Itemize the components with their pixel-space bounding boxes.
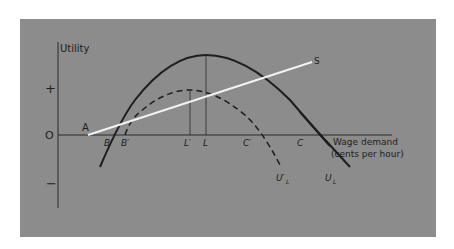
label-UL: U — [325, 173, 332, 183]
utility-diagram: Utility + O − A B B′ L′ L C′ C S Wage de… — [0, 0, 454, 249]
label-B-prime: B′ — [121, 138, 129, 148]
label-UL-prime-sub: L — [286, 178, 289, 185]
minus-sign: − — [46, 176, 57, 191]
label-L-prime: L′ — [184, 138, 191, 148]
origin-label: O — [45, 129, 54, 142]
label-UL-sub: L — [333, 178, 336, 185]
y-axis-label: Utility — [60, 43, 89, 54]
x-axis-label-line1: Wage demand — [333, 137, 398, 147]
curve-UL — [100, 55, 330, 167]
label-UL-prime: U′ — [276, 173, 285, 183]
label-A: A — [82, 122, 89, 133]
label-B: B — [104, 138, 110, 148]
x-axis-label-line2: (cents per hour) — [331, 149, 404, 159]
line-AS — [88, 62, 312, 135]
label-C-prime: C′ — [243, 138, 251, 148]
plus-sign: + — [45, 81, 56, 96]
curve-UL-prime — [125, 90, 280, 165]
label-L: L — [203, 138, 208, 148]
label-S: S — [314, 56, 320, 66]
label-C: C — [297, 138, 304, 148]
